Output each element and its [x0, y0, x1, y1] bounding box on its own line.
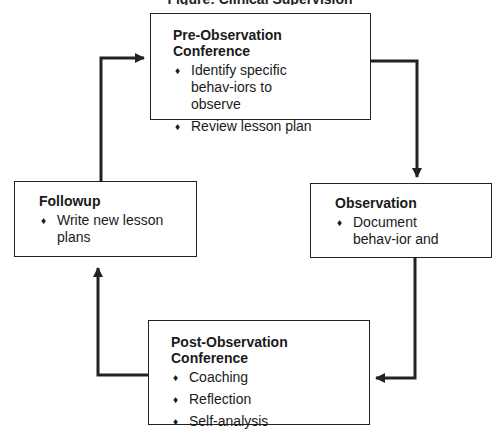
- list-item: Reflection: [171, 391, 361, 408]
- box-title: Followup: [39, 193, 186, 209]
- diagram-title-cropped: Figure: Clinical Supervision Cycle: [150, 0, 370, 5]
- box-title: Observation: [335, 195, 481, 211]
- box-observation: Observation Document behav-ior and: [310, 183, 492, 258]
- arrow-observation-to-post: [376, 258, 415, 378]
- box-pre-observation-conference: Pre-Observation Conference Identify spec…: [150, 13, 371, 120]
- box-title: Post-Observation Conference: [171, 334, 361, 366]
- list-item: Identify specific behav-iors to observe: [173, 62, 321, 113]
- list-item: Review lesson plan: [173, 118, 360, 135]
- list-item: Coaching: [171, 369, 361, 386]
- arrow-followup-to-pre: [101, 58, 144, 181]
- arrow-pre-to-observation: [371, 61, 417, 177]
- list-item: Self-analysis: [171, 413, 361, 430]
- box-post-observation-conference: Post-Observation Conference Coaching Ref…: [148, 320, 370, 425]
- box-title: Pre-Observation Conference: [173, 27, 360, 59]
- arrow-post-to-followup: [98, 268, 148, 375]
- box-followup: Followup Write new lesson plans: [14, 181, 197, 257]
- list-item: Write new lesson plans: [39, 212, 177, 246]
- list-item: Document behav-ior and: [335, 214, 463, 248]
